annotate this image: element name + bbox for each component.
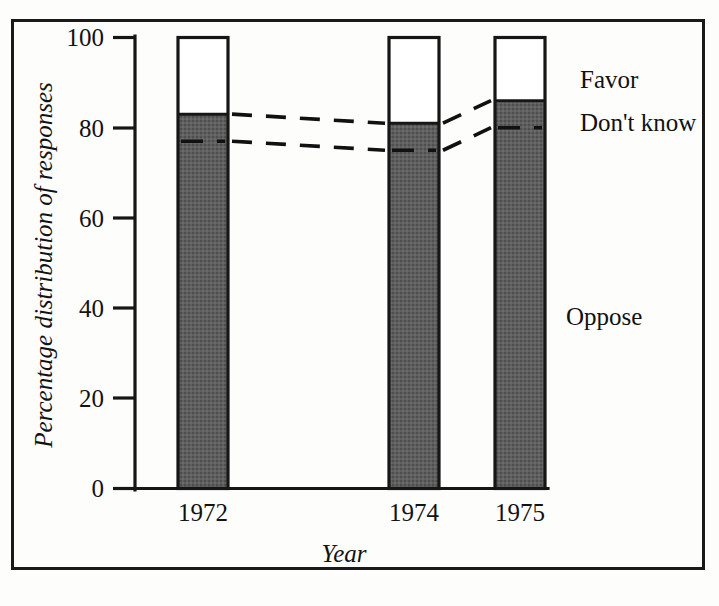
bar-group-1975	[495, 38, 545, 489]
y-tick-label-80: 80	[79, 115, 104, 142]
legend-label-favor: Favor	[580, 66, 639, 93]
y-tick-labels: 100 80 60 40 20 0	[67, 24, 105, 502]
connector-dontknow-top-1974-1975	[443, 101, 491, 124]
x-tick-label-1975: 1975	[495, 499, 545, 526]
x-tick-label-1972: 1972	[178, 499, 228, 526]
y-tick-label-60: 60	[79, 205, 104, 232]
x-tick-labels: 1972 1974 1975	[178, 499, 545, 526]
connector-oppose-top-1974-1975	[443, 128, 491, 151]
legend-label-oppose: Oppose	[566, 303, 642, 330]
bar-segment-gray-1972	[178, 114, 228, 488]
bars-group	[178, 38, 545, 489]
y-axis	[113, 36, 135, 490]
x-tick-label-1974: 1974	[389, 499, 440, 526]
bar-group-1972	[178, 38, 228, 489]
bar-group-1974	[389, 38, 439, 489]
figure-root: 100 80 60 40 20 0 1972 1974 1975 Favor D…	[0, 0, 719, 606]
bar-segment-gray-1975	[495, 101, 545, 489]
y-tick-label-40: 40	[79, 295, 104, 322]
y-tick-label-100: 100	[67, 24, 105, 51]
y-tick-label-20: 20	[79, 385, 104, 412]
x-axis-title: Year	[322, 540, 367, 567]
connector-oppose-top-1972-1974	[232, 141, 385, 150]
dashed-connectors-group	[232, 101, 491, 151]
bar-segment-favor-1975	[495, 38, 545, 101]
y-axis-title: Percentage distribution of responses	[30, 82, 57, 448]
bar-segment-favor-1974	[389, 38, 439, 124]
inline-legend: Favor Don't know Oppose	[566, 66, 696, 330]
stacked-bar-chart: 100 80 60 40 20 0 1972 1974 1975 Favor D…	[0, 0, 719, 606]
y-tick-label-0: 0	[92, 475, 105, 502]
connector-dontknow-top-1972-1974	[232, 114, 385, 123]
legend-label-dontknow: Don't know	[580, 109, 696, 136]
bar-segment-gray-1974	[389, 123, 439, 488]
bar-segment-favor-1972	[178, 38, 228, 115]
